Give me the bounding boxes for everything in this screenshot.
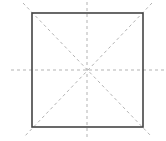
guide-lines <box>11 2 164 139</box>
diagram-canvas <box>0 0 166 141</box>
